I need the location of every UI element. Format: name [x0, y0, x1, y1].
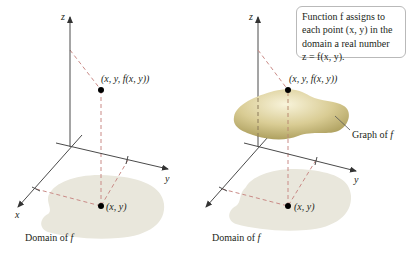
y-axis-label: y	[165, 174, 169, 184]
point-2d	[285, 203, 291, 209]
domain-label-text: Domain of	[212, 232, 258, 243]
callout-line-4: z = f(x, y).	[302, 50, 400, 63]
y-axis	[56, 143, 168, 169]
graph-surface	[234, 89, 349, 139]
graph-label: Graph of f	[352, 130, 393, 140]
point-3d	[98, 87, 104, 93]
graph-label-f: f	[390, 129, 393, 140]
point-3d-label: (x, y, f(x, y))	[101, 74, 149, 84]
domain-label-text: Domain of	[25, 232, 71, 243]
left-diagram	[18, 17, 168, 239]
z-drop-guide	[258, 50, 288, 90]
point-3d-label: (x, y, f(x, y))	[289, 74, 337, 84]
point-2d	[98, 203, 104, 209]
z-axis-label: z	[61, 12, 65, 22]
point-2d-label: (x, y)	[106, 202, 127, 212]
callout-line-2: each point (x, y) in the	[302, 23, 400, 36]
point-2d-label: (x, y)	[294, 202, 315, 212]
callout-box: Function f assigns to each point (x, y) …	[296, 6, 406, 58]
z-axis-label: z	[249, 12, 253, 22]
domain-label-f: f	[258, 232, 261, 243]
callout-line-1: Function f assigns to	[302, 10, 400, 23]
y-axis-label: y	[354, 175, 358, 185]
callout-line-3: domain a real number	[302, 37, 400, 50]
domain-label: Domain of f	[212, 233, 260, 243]
graph-label-text: Graph of	[352, 129, 390, 140]
domain-region	[229, 169, 351, 231]
z-drop-guide	[70, 50, 101, 90]
x-axis-label: x	[15, 210, 19, 220]
domain-label-f: f	[71, 232, 74, 243]
point-3d	[285, 87, 291, 93]
y-axis	[244, 143, 356, 171]
domain-label: Domain of f	[25, 233, 73, 243]
